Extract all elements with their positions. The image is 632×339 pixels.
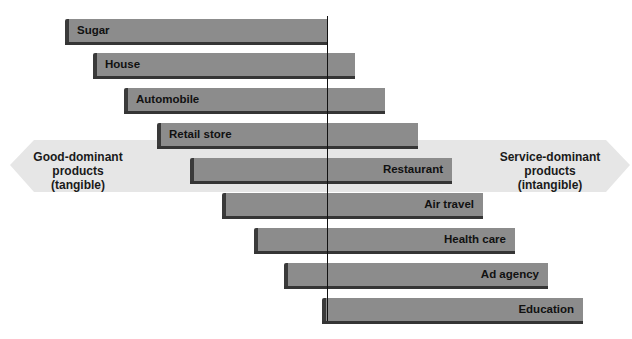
bar-automobile: Automobile bbox=[124, 88, 385, 111]
service-dominant-line2: products bbox=[490, 164, 610, 178]
bar-label: Automobile bbox=[136, 88, 199, 111]
bar-house: House bbox=[93, 53, 355, 76]
service-dominant-label: Service-dominant products (intangible) bbox=[490, 150, 610, 192]
bar-label: Air travel bbox=[424, 193, 474, 216]
service-dominant-line1: Service-dominant bbox=[490, 150, 610, 164]
bar-label: House bbox=[105, 53, 140, 76]
bar-health-care: Health care bbox=[254, 228, 515, 251]
service-dominant-line3: (intangible) bbox=[490, 178, 610, 192]
bar-label: Education bbox=[518, 298, 574, 321]
bar-education: Education bbox=[322, 298, 583, 321]
bar-label: Retail store bbox=[169, 123, 232, 146]
bar-label: Health care bbox=[444, 228, 506, 251]
bar-retail-store: Retail store bbox=[157, 123, 418, 146]
good-dominant-line1: Good-dominant bbox=[28, 150, 128, 164]
bar-sugar: Sugar bbox=[65, 19, 327, 42]
midpoint-divider-line bbox=[327, 16, 328, 321]
good-dominant-line2: products bbox=[28, 164, 128, 178]
good-dominant-label: Good-dominant products (tangible) bbox=[28, 150, 128, 192]
bar-label: Restaurant bbox=[383, 158, 443, 181]
good-dominant-line3: (tangible) bbox=[28, 178, 128, 192]
bar-air-travel: Air travel bbox=[222, 193, 483, 216]
bar-label: Sugar bbox=[77, 19, 110, 42]
bar-ad-agency: Ad agency bbox=[284, 263, 548, 286]
bar-restaurant: Restaurant bbox=[190, 158, 452, 181]
bar-label: Ad agency bbox=[481, 263, 539, 286]
